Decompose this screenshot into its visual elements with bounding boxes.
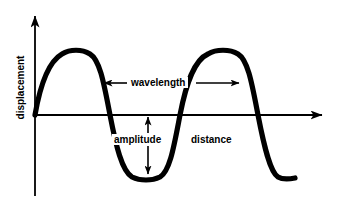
wave-diagram-svg (0, 0, 341, 204)
wavelength-label: wavelength (128, 77, 188, 88)
wave-diagram: displacement wavelength amplitude distan… (0, 0, 341, 204)
amplitude-label: amplitude (112, 134, 163, 145)
distance-label: distance (189, 134, 234, 145)
y-axis-label: displacement (15, 51, 26, 125)
